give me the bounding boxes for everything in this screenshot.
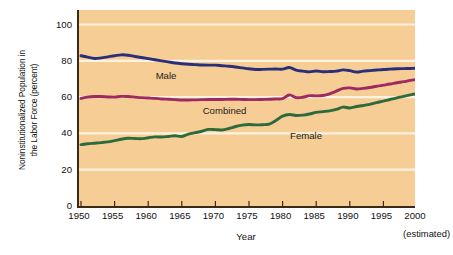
y-tick-label: 20: [46, 164, 72, 175]
y-tick-label: 40: [46, 127, 72, 138]
x-axis-tick-marks: [81, 201, 415, 206]
estimated-note: (estimated): [403, 228, 450, 239]
y-axis-title: Noninstitutionalized Population in the L…: [6, 10, 40, 210]
x-axis-title: Year: [77, 231, 415, 242]
y-axis-title-line-1: Noninstitutionalized Population in: [17, 10, 29, 210]
y-tick-label: 100: [46, 19, 72, 30]
data-series-lines: [81, 55, 415, 145]
series-label-combined: Combined: [203, 105, 247, 116]
x-axis-tick-labels: 1950195519601965197019751980198519901995…: [0, 210, 453, 228]
plot-area: Male Combined Female: [77, 10, 415, 208]
series-line-female: [81, 93, 415, 144]
y-axis-title-line-2: the Labor Force (percent): [29, 10, 41, 210]
y-tick-label: 80: [46, 55, 72, 66]
series-line-male: [81, 55, 415, 72]
x-tick-label: 2000: [395, 210, 435, 221]
plot-svg: [79, 10, 415, 208]
series-label-male: Male: [156, 70, 177, 81]
y-tick-label: 60: [46, 91, 72, 102]
series-label-female: Female: [290, 130, 322, 141]
labor-force-line-chart: Noninstitutionalized Population in the L…: [0, 0, 453, 255]
